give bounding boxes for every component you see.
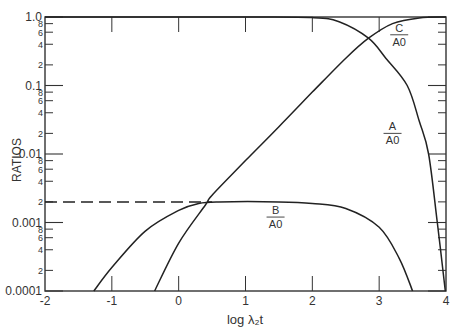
curve-label: AA0 xyxy=(384,120,402,146)
svg-text:B: B xyxy=(272,204,279,216)
x-tick-label: 1 xyxy=(242,294,249,308)
svg-text:A0: A0 xyxy=(269,218,282,230)
series-line-c xyxy=(155,17,446,291)
x-tick-label: 2 xyxy=(309,294,316,308)
y-minor-tick-label: 2 xyxy=(38,129,43,139)
y-minor-tick-label: 2 xyxy=(38,60,43,70)
x-tick-label: -2 xyxy=(40,294,51,308)
y-minor-tick-label: 6 xyxy=(38,233,43,243)
y-minor-tick-label: 4 xyxy=(38,245,43,255)
series-line-a xyxy=(45,17,445,291)
y-minor-tick-label: 8 xyxy=(38,225,43,235)
curve-label: BA0 xyxy=(267,204,285,230)
x-tick-label: 3 xyxy=(376,294,383,308)
x-axis-label: log λ₂t xyxy=(227,312,264,327)
x-tick-label: -1 xyxy=(106,294,117,308)
x-tick-label: 0 xyxy=(175,294,182,308)
svg-text:C: C xyxy=(395,22,403,34)
y-minor-tick-label: 2 xyxy=(38,266,43,276)
chart: 1.00.10.010.0010.00012468246824682468 -2… xyxy=(0,0,456,331)
y-minor-tick-label: 4 xyxy=(38,108,43,118)
y-minor-tick-label: 6 xyxy=(38,28,43,38)
y-minor-tick-label: 2 xyxy=(38,197,43,207)
svg-text:A0: A0 xyxy=(386,134,399,146)
y-tick-label: 0.0001 xyxy=(5,284,42,298)
y-minor-tick-label: 8 xyxy=(38,88,43,98)
y-minor-tick-label: 8 xyxy=(38,156,43,166)
y-axis-ticks: 1.00.10.010.0010.00012468246824682468 xyxy=(5,10,446,298)
data-series xyxy=(45,17,446,291)
y-minor-tick-label: 8 xyxy=(38,19,43,29)
x-tick-label: 4 xyxy=(443,294,450,308)
y-minor-tick-label: 6 xyxy=(38,165,43,175)
series-line-b xyxy=(94,202,413,291)
y-axis-label: RATIOS xyxy=(10,138,24,182)
y-minor-tick-label: 6 xyxy=(38,96,43,106)
svg-text:A: A xyxy=(389,120,397,132)
y-minor-tick-label: 4 xyxy=(38,177,43,187)
svg-text:A0: A0 xyxy=(392,36,405,48)
y-minor-tick-label: 4 xyxy=(38,40,43,50)
curve-labels: CA0AA0BA0 xyxy=(267,22,409,230)
curve-label: CA0 xyxy=(390,22,408,48)
